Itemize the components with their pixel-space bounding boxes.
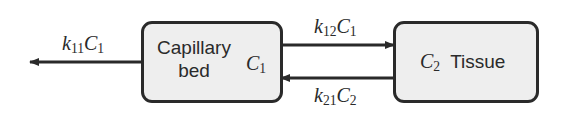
elimination-rate-label: k11C1 xyxy=(62,32,104,57)
capillary-concentration: C1 xyxy=(246,52,266,77)
capillary-bed-label: Capillary bed xyxy=(154,36,234,82)
tissue-concentration: C2 xyxy=(420,50,440,72)
tissue-label: C2 Tissue xyxy=(420,50,505,75)
capillary-bed-box: Capillary bed C1 xyxy=(141,21,283,103)
tissue-box: C2 Tissue xyxy=(393,21,539,103)
transfer-rate-12-label: k12C1 xyxy=(314,15,357,40)
transfer-rate-21-label: k21C2 xyxy=(314,84,357,109)
